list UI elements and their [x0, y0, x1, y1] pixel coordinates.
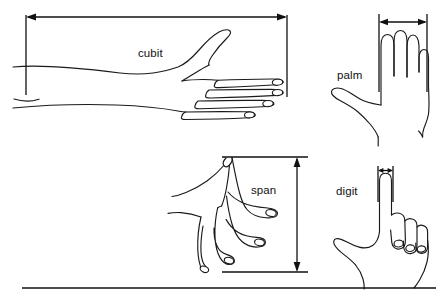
label-cubit: cubit	[138, 47, 163, 59]
cubit-arm-upper-contour	[13, 30, 231, 74]
cubit-middle-fingernail	[272, 89, 283, 96]
palm-middle-finger	[394, 31, 407, 78]
measurement-units-figure: cubit palm span digit	[0, 0, 444, 301]
span-panel	[168, 157, 308, 274]
span-little-finger	[198, 217, 207, 273]
span-arrowhead-bottom	[294, 262, 301, 272]
palm-thumb-inner	[358, 112, 379, 138]
digit-arrowhead-left	[378, 168, 383, 173]
cubit-arrowhead-right	[277, 14, 287, 21]
label-palm: palm	[337, 69, 362, 81]
digit-arrowhead-right	[388, 168, 393, 173]
digit-hand-heel	[356, 265, 365, 289]
cubit-ring-fingernail	[263, 100, 274, 107]
cubit-panel	[13, 14, 287, 120]
cubit-middle-finger	[206, 89, 284, 98]
digit-index-base-left	[360, 232, 380, 248]
cubit-index-fingernail	[272, 79, 283, 86]
label-digit: digit	[336, 185, 358, 197]
cubit-arm-lower-contour	[13, 105, 186, 112]
span-arrowhead-top	[294, 157, 301, 167]
palm-thumb-outer	[331, 88, 381, 111]
span-thumb-tip	[223, 158, 232, 167]
palm-arrowhead-right	[418, 19, 427, 25]
span-palm-inner-line	[218, 206, 222, 208]
span-thumb-outer-edge	[172, 166, 224, 197]
digit-little-fingernail	[417, 245, 426, 252]
cubit-arrowhead-left	[26, 14, 36, 21]
span-ring-finger	[214, 208, 234, 264]
cubit-elbow-crease	[14, 99, 39, 101]
palm-index-finger	[381, 35, 394, 106]
digit-ring-fingernail	[405, 244, 414, 251]
label-span: span	[251, 184, 276, 196]
palm-arrowhead-left	[379, 19, 388, 25]
cubit-hand-knuckle-line	[182, 80, 218, 82]
digit-middle-fingernail	[394, 240, 404, 248]
cubit-thumb-inner-edge	[182, 65, 209, 81]
figure-line-art	[0, 0, 444, 301]
digit-thumb-outer	[334, 239, 360, 265]
cubit-ring-finger	[195, 100, 274, 108]
palm-wrist-right-tick	[419, 131, 423, 137]
span-thumb-inner-edge	[222, 165, 230, 206]
span-palm-heel-edge	[168, 212, 201, 217]
digit-index-finger	[380, 173, 392, 232]
palm-outer-edge	[423, 86, 430, 137]
palm-ring-finger	[407, 35, 419, 77]
cubit-little-fingernail	[244, 112, 254, 119]
